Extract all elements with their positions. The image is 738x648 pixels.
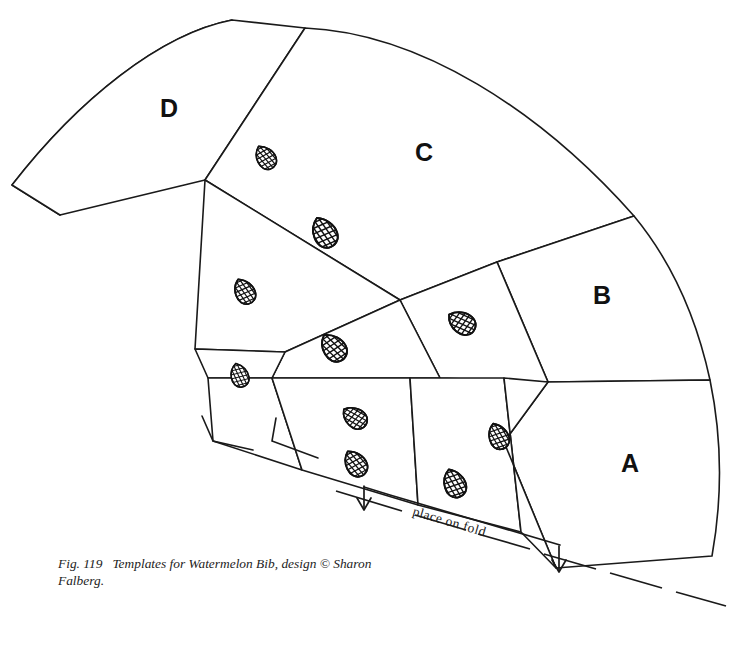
caption-figure-text: Templates for Watermelon Bib, design © S… — [58, 556, 371, 588]
panel-label-c: C — [415, 138, 433, 166]
caption-figure-number: Fig. 119 — [58, 556, 102, 571]
panel-label-d: D — [160, 94, 178, 122]
panel-label-a: A — [621, 449, 639, 477]
figure-caption: Fig. 119Templates for Watermelon Bib, de… — [58, 556, 388, 590]
panel-shape-bottom-mid[interactable] — [272, 378, 418, 505]
panel-label-b: B — [593, 281, 611, 309]
fold-line-segment-6 — [676, 592, 726, 606]
fold-line-segment-5 — [610, 573, 662, 588]
fold-line-segment-3 — [478, 534, 530, 549]
figure-page: D C B A place on fold Fig. 119Templates … — [0, 0, 738, 648]
watermelon-bib-template-diagram: D C B A place on fold — [0, 0, 738, 648]
